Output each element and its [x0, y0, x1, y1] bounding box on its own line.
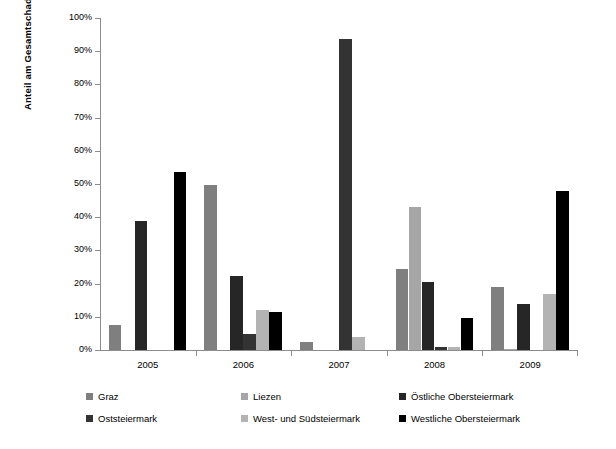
legend-label: West- und Südsteiermark — [253, 413, 360, 424]
y-axis-tick-mark — [95, 250, 100, 251]
bar — [135, 221, 148, 350]
bar — [243, 334, 256, 350]
bar — [109, 325, 122, 350]
y-axis-tick-label: 100% — [52, 13, 92, 22]
bar — [396, 269, 409, 350]
bar-group — [204, 18, 282, 350]
bar — [204, 185, 217, 350]
y-axis-tick-mark — [95, 118, 100, 119]
bar — [409, 207, 422, 350]
legend-row: Oststeiermark West- und Südsteiermark We… — [86, 407, 566, 429]
y-axis-tick-mark — [95, 284, 100, 285]
bar-group — [109, 18, 187, 350]
x-axis-tick-mark — [482, 351, 483, 356]
y-axis-tick-label: 80% — [52, 79, 92, 88]
y-axis-tick-mark — [95, 350, 100, 351]
y-axis-tick-mark — [95, 84, 100, 85]
legend-item-oststeiermark[interactable]: Oststeiermark — [86, 413, 241, 424]
bar-group — [300, 18, 378, 350]
legend-item-west-und-suedsteiermark[interactable]: West- und Südsteiermark — [241, 413, 399, 424]
legend-swatch-icon — [241, 393, 248, 400]
legend-item-westliche-obersteiermark[interactable]: Westliche Obersteiermark — [399, 413, 564, 424]
y-axis-tick-label: 30% — [52, 245, 92, 254]
plot-area: 0%10%20%30%40%50%60%70%80%90%100% 200520… — [100, 18, 578, 351]
legend-item-graz[interactable]: Graz — [86, 391, 241, 402]
bar — [352, 337, 365, 350]
y-axis-tick-label: 70% — [52, 113, 92, 122]
bar — [256, 310, 269, 350]
x-axis-category-label: 2009 — [482, 359, 578, 370]
bar — [422, 282, 435, 350]
bar-chart: Anteil am Gesamtschaden 0%10%20%30%40%50… — [0, 0, 616, 449]
legend-swatch-icon — [399, 393, 406, 400]
bar — [300, 342, 313, 350]
legend-label: Oststeiermark — [98, 413, 157, 424]
x-axis-tick-mark — [196, 351, 197, 356]
x-axis-category-label: 2006 — [196, 359, 292, 370]
legend-label: Graz — [98, 391, 119, 402]
legend-swatch-icon — [86, 393, 93, 400]
bar — [517, 304, 530, 350]
y-axis-tick-label: 0% — [52, 345, 92, 354]
legend-label: Östliche Obersteiermark — [411, 391, 513, 402]
x-axis-tick-mark — [577, 351, 578, 356]
legend-swatch-icon — [86, 415, 93, 422]
y-axis-tick-label: 40% — [52, 212, 92, 221]
bar — [435, 347, 448, 350]
y-axis-tick-label: 20% — [52, 279, 92, 288]
legend-label: Westliche Obersteiermark — [411, 413, 520, 424]
bar — [230, 276, 243, 350]
y-axis-tick-label: 50% — [52, 179, 92, 188]
bar-group — [396, 18, 474, 350]
y-axis-title: Anteil am Gesamtschaden — [22, 0, 33, 110]
legend-item-oestliche-obersteiermark[interactable]: Östliche Obersteiermark — [399, 391, 564, 402]
legend-row: Graz Liezen Östliche Obersteiermark — [86, 385, 566, 407]
bar — [504, 349, 517, 350]
y-axis-tick-mark — [95, 184, 100, 185]
y-axis-tick-label: 10% — [52, 312, 92, 321]
bar — [461, 318, 474, 350]
y-axis-tick-mark — [95, 217, 100, 218]
y-axis-tick-label: 90% — [52, 46, 92, 55]
x-axis-category-label: 2007 — [291, 359, 387, 370]
y-axis-tick-mark — [95, 18, 100, 19]
x-axis-tick-mark — [291, 351, 292, 356]
y-axis-tick-label: 60% — [52, 146, 92, 155]
y-axis-line — [100, 18, 101, 351]
legend-label: Liezen — [253, 391, 281, 402]
bar — [269, 312, 282, 350]
bar — [448, 347, 461, 350]
legend-item-liezen[interactable]: Liezen — [241, 391, 399, 402]
legend-swatch-icon — [241, 415, 248, 422]
chart-legend: Graz Liezen Östliche Obersteiermark Osts… — [86, 385, 566, 429]
bar — [543, 294, 556, 350]
x-axis-category-label: 2005 — [100, 359, 196, 370]
bar — [174, 172, 187, 350]
bar — [491, 287, 504, 350]
x-axis-tick-mark — [387, 351, 388, 356]
x-axis-line — [100, 350, 578, 351]
legend-swatch-icon — [399, 415, 406, 422]
bar-group — [491, 18, 569, 350]
y-axis-tick-mark — [95, 151, 100, 152]
x-axis-category-label: 2008 — [387, 359, 483, 370]
bar — [556, 191, 569, 350]
y-axis-tick-mark — [95, 317, 100, 318]
bar — [339, 39, 352, 350]
y-axis-tick-mark — [95, 51, 100, 52]
